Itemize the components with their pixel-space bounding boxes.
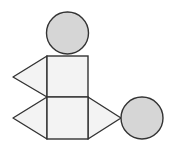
top-circle [47,12,89,54]
lower-left-triangle [13,97,47,139]
lower-square [47,97,88,139]
right-circle [121,97,163,139]
squares-group [47,56,88,139]
lower-right-triangle [88,97,121,139]
upper-square [47,56,88,97]
upper-left-triangle [13,56,47,97]
net-diagram [0,0,170,157]
